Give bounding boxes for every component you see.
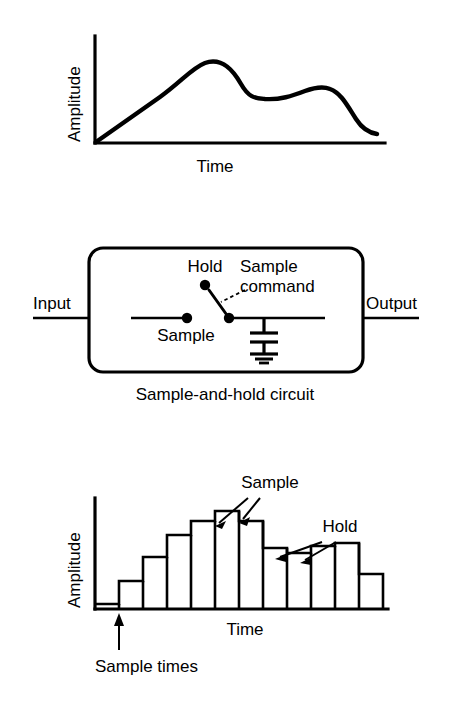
hold-arrow-2-head — [300, 557, 312, 565]
top-y-axis-label: Amplitude — [65, 66, 84, 142]
figure-root: Amplitude Time — [0, 0, 450, 703]
top-x-axis-label: Time — [196, 157, 233, 176]
hold-contact-dot — [200, 280, 210, 290]
top-waveform-panel: Amplitude Time — [0, 0, 450, 200]
input-label: Input — [33, 294, 71, 313]
circuit-svg: Input Output Hold Sample Sample command … — [0, 220, 450, 420]
output-label: Output — [366, 294, 417, 313]
circuit-caption: Sample-and-hold circuit — [136, 385, 315, 404]
hold-arrow-1-head — [275, 554, 287, 562]
top-waveform-svg: Amplitude Time — [0, 0, 450, 200]
bottom-x-axis-label: Time — [226, 620, 263, 639]
sampled-waveform-svg: Sample Hold Sample times Amplitude Time — [0, 450, 450, 703]
sample-command-label-line1: Sample — [240, 257, 298, 276]
hold-label: Hold — [188, 257, 223, 276]
sampled-waveform-panel: Sample Hold Sample times Amplitude Time — [0, 450, 450, 703]
top-waveform-curve — [96, 61, 377, 142]
switch-pivot-dot — [224, 313, 234, 323]
circuit-block-outline — [89, 248, 363, 372]
sample-times-label: Sample times — [95, 657, 198, 676]
bottom-y-axis-label: Amplitude — [65, 532, 84, 608]
sample-label: Sample — [157, 326, 215, 345]
circuit-panel: Input Output Hold Sample Sample command … — [0, 220, 450, 420]
sample-times-arrow-head — [114, 613, 124, 626]
sample-command-label-line2: command — [240, 277, 315, 296]
hold-annotation-label: Hold — [323, 517, 358, 536]
sample-contact-dot — [182, 313, 192, 323]
sample-annotation-label: Sample — [241, 473, 299, 492]
